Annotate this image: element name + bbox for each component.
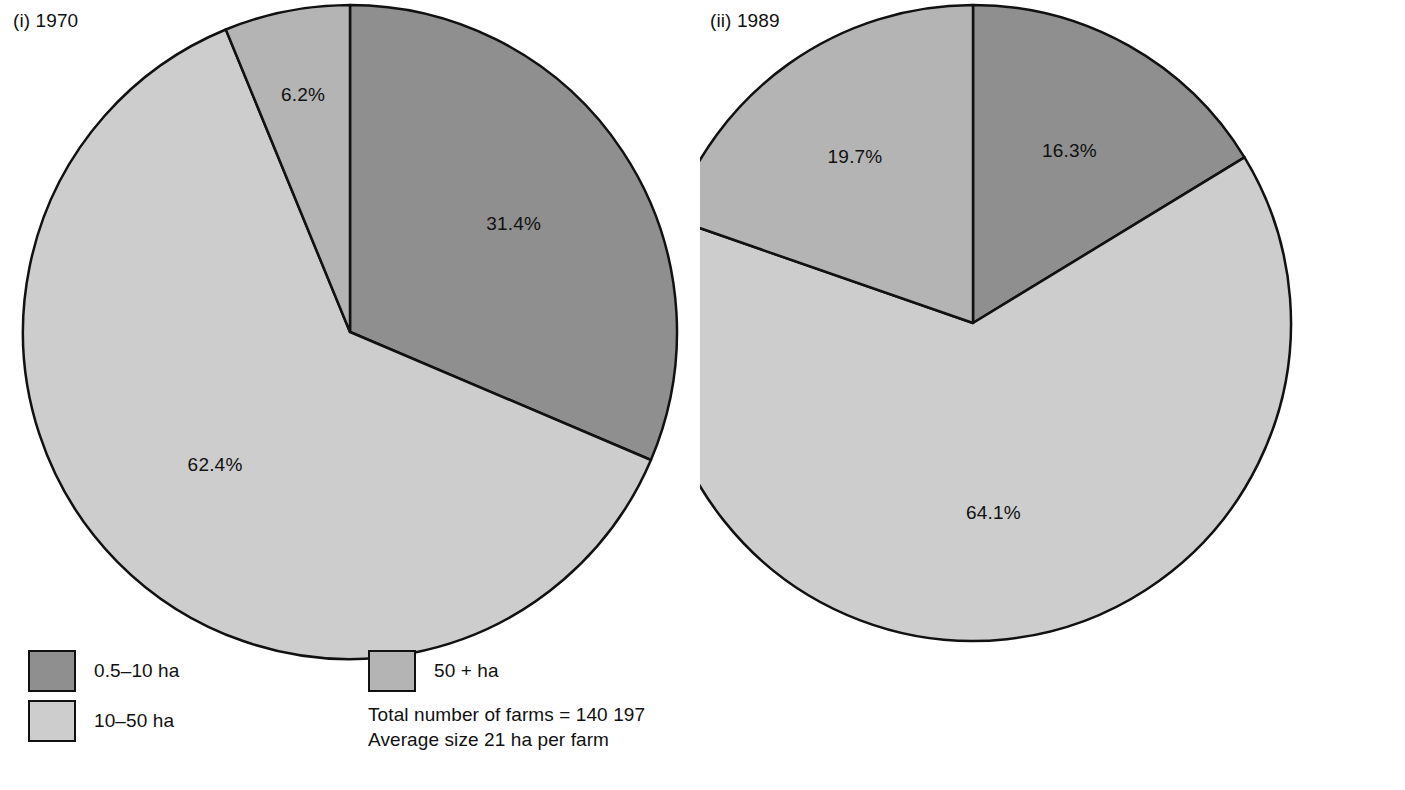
legend-item-2[interactable]: 50 + ha <box>368 648 645 694</box>
pie-slice-label: 16.3% <box>1042 140 1097 162</box>
totals-block: Total number of farms = 140 197 Average … <box>368 702 645 752</box>
total-farms-line: Total number of farms = 140 197 <box>368 702 645 727</box>
legend-item-0[interactable]: 0.5–10 ha <box>28 648 179 694</box>
legend-swatch-dark-icon <box>28 650 76 692</box>
pie-slice-label: 62.4% <box>188 454 243 476</box>
chart-panel-1970: (i) 1970 31.4%62.4%6.2% 0.5–10 ha 10–50 … <box>0 0 702 790</box>
legend-label: 10–50 ha <box>94 710 174 732</box>
pie-slice-label: 64.1% <box>966 502 1021 524</box>
pie-slices-group <box>23 5 677 659</box>
pie-svg-1989 <box>700 0 1405 660</box>
pie-slice-label: 6.2% <box>281 84 325 106</box>
pie-chart-1970: 31.4%62.4%6.2% <box>0 0 702 680</box>
pie-slice-label: 31.4% <box>486 213 541 235</box>
pie-slices-group <box>700 5 1291 641</box>
legend-label: 0.5–10 ha <box>94 660 179 682</box>
legend-item-1[interactable]: 10–50 ha <box>28 698 179 744</box>
pie-svg-1970 <box>0 0 702 680</box>
chart-panel-1989: (ii) 1989 16.3%64.1%19.7% 0.5–10 ha 10–5… <box>700 0 1402 790</box>
legend-swatch-medium-icon <box>368 650 416 692</box>
legend-swatch-light-icon <box>28 700 76 742</box>
pie-chart-1989: 16.3%64.1%19.7% <box>700 0 1405 660</box>
pie-slice-label: 19.7% <box>828 146 883 168</box>
average-size-line: Average size 21 ha per farm <box>368 727 645 752</box>
legend-column-left: 0.5–10 ha 10–50 ha <box>28 648 179 748</box>
legend-label: 50 + ha <box>434 660 499 682</box>
legend-column-right: 50 + ha Total number of farms = 140 197 … <box>368 648 645 752</box>
